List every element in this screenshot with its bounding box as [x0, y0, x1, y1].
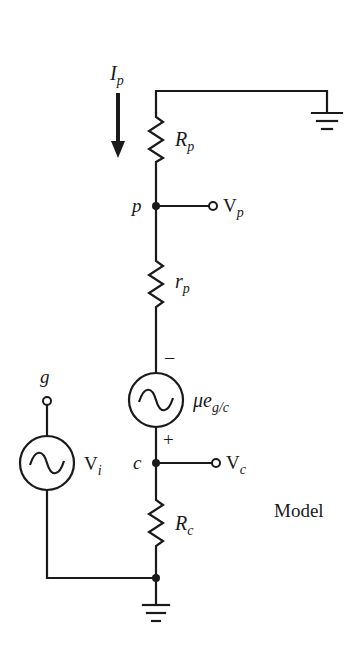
- diagram-title: Model: [274, 500, 324, 521]
- node-g-label: g: [40, 366, 50, 387]
- Vp-label: Vp: [223, 195, 244, 220]
- node-p-label: p: [130, 195, 142, 216]
- circuit-diagram: Ip Rp p Vp rp − μeg/c + c Vc Rc g: [0, 0, 362, 660]
- Rp-label: Rp: [174, 128, 194, 154]
- Vc-label: Vc: [226, 452, 247, 477]
- Vi-label: Vi: [84, 453, 102, 478]
- top-wire: [156, 91, 327, 113]
- source-mu-label: μeg/c: [192, 389, 230, 415]
- current-label: Ip: [109, 62, 124, 88]
- Vp-terminal-icon: [209, 202, 217, 210]
- rp-label: rp: [175, 270, 190, 296]
- ground-icon-bottom: [143, 605, 169, 621]
- source-plus-label: +: [163, 429, 174, 450]
- resistor-Rp-icon: [149, 113, 163, 206]
- ac-source-mu-icon: [129, 373, 183, 427]
- source-minus-label: −: [164, 347, 175, 369]
- ac-source-Vi-icon: [20, 436, 74, 490]
- resistor-rp-icon: [149, 206, 163, 372]
- ground-icon-top: [312, 113, 342, 129]
- resistor-Rc-icon: [149, 463, 163, 578]
- Rc-label: Rc: [174, 512, 194, 538]
- Vi-return-wire: [47, 490, 156, 578]
- current-arrow-icon: [111, 93, 125, 158]
- node-c-label: c: [133, 452, 142, 473]
- g-terminal-icon: [43, 397, 51, 405]
- Vc-terminal-icon: [212, 459, 220, 467]
